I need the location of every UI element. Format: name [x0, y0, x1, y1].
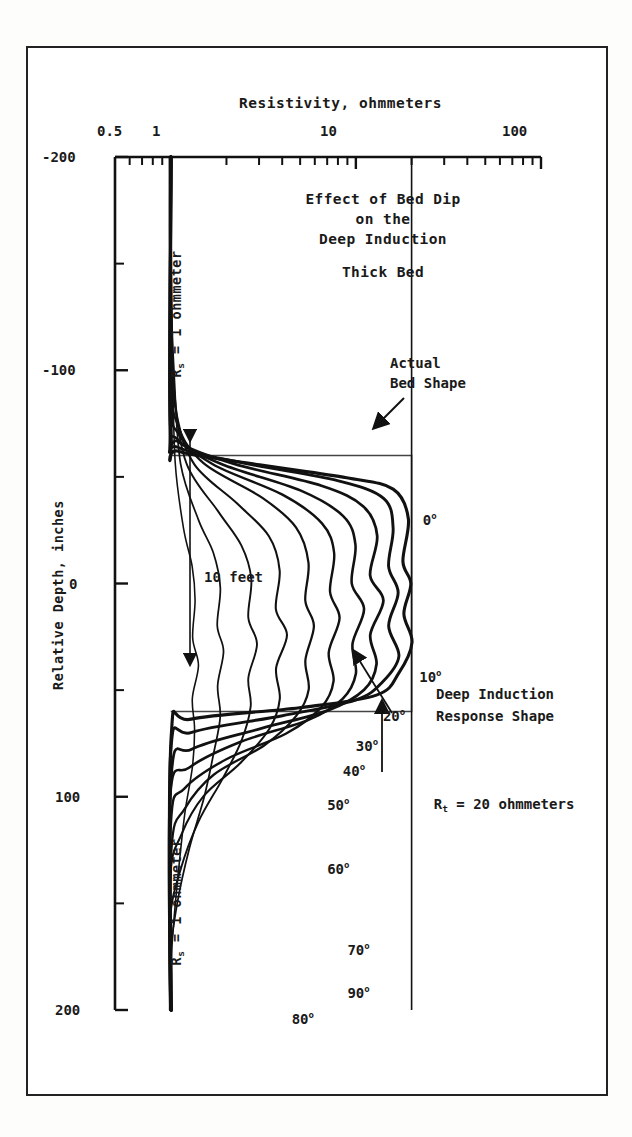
- y-tick-label-4: 200: [55, 1003, 80, 1017]
- curve-label-50: 50o: [327, 797, 349, 812]
- actual-bed-shape-label-1: Actual: [390, 355, 441, 373]
- figure-page: Resistivity, ohmmeters Relative Depth, i…: [0, 0, 632, 1137]
- x-axis-title: Resistivity, ohmmeters: [239, 96, 442, 111]
- y-tick-label-0: -200: [42, 150, 76, 164]
- rs-annotation-lower: Rs = 1 ohmmeter: [156, 838, 199, 1000]
- x-tick-label-3: 100: [502, 124, 527, 138]
- figure-subtitle: Thick Bed: [342, 265, 424, 280]
- rs-subscript-upper: s: [175, 363, 186, 369]
- rt-annotation: Rt = 20 ohmmeters: [400, 778, 574, 832]
- x-tick-label-1: 1: [152, 124, 160, 138]
- x-tick-label-2: 10: [320, 124, 337, 138]
- x-tick-label-0: 0.5: [97, 124, 122, 138]
- rs-value-upper: = 1 ohmmeter: [168, 250, 184, 362]
- response-shape-label-2: Response Shape: [436, 708, 554, 726]
- y-tick-label-2: 0: [69, 577, 77, 591]
- rs-subscript-lower: s: [175, 951, 186, 957]
- curve-label-70: 70o: [347, 942, 369, 957]
- curve-label-40: 40o: [343, 763, 365, 778]
- x-axis-ticks: [115, 157, 541, 169]
- rt-value: = 20 ohmmeters: [448, 796, 574, 812]
- curve-label-0: 0o: [423, 512, 437, 527]
- rs-value-lower: = 1 ohmmeter: [168, 838, 184, 950]
- rs-symbol-upper: R: [168, 369, 184, 378]
- curve-label-10: 10o: [419, 669, 441, 684]
- rs-annotation-upper: Rs = 1 ohmmeter: [156, 250, 199, 412]
- response-shape-label-1: Deep Induction: [436, 686, 554, 704]
- figure-title-line-3: Deep Induction: [319, 232, 447, 247]
- actual-bed-shape-label-2: Bed Shape: [390, 375, 466, 393]
- chart-canvas: [0, 0, 632, 1137]
- y-tick-label-1: -100: [42, 363, 76, 377]
- figure-title-line-2: on the: [356, 212, 411, 227]
- figure-title-line-1: Effect of Bed Dip: [305, 192, 460, 207]
- curve-label-60: 60o: [327, 861, 349, 876]
- y-axis-ticks: [115, 157, 128, 1010]
- y-tick-label-3: 100: [55, 790, 80, 804]
- curve-label-80: 80o: [292, 1011, 314, 1026]
- rt-symbol: R: [434, 796, 442, 812]
- y-axis-title: Relative Depth, inches: [52, 500, 66, 690]
- rs-symbol-lower: R: [168, 957, 184, 966]
- curve-label-90: 90o: [347, 985, 369, 1000]
- curve-label-30: 30o: [356, 738, 378, 753]
- curve-label-20: 20o: [383, 708, 405, 723]
- bed-thickness-label: 10 feet: [204, 570, 263, 584]
- response-shape-leader: [356, 655, 392, 713]
- actual-bed-shape-leader: [378, 398, 404, 424]
